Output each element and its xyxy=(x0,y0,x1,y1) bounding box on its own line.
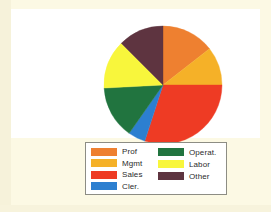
legend-item: Other xyxy=(158,171,221,181)
legend-swatch-prof xyxy=(91,148,117,156)
legend-swatch-sales xyxy=(91,171,117,179)
legend-swatch-labor xyxy=(158,160,184,168)
chart-legend: ProfMgmtSalesCler. Operat.LaborOther xyxy=(85,142,227,195)
scan-edge-left xyxy=(0,0,11,212)
legend-item: Prof xyxy=(91,147,154,157)
legend-label: Operat. xyxy=(189,148,216,157)
legend-swatch-operat xyxy=(158,148,184,156)
page-background: ProfMgmtSalesCler. Operat.LaborOther xyxy=(0,0,271,212)
scan-edge-bottom xyxy=(0,205,271,212)
legend-swatch-cler xyxy=(91,182,117,190)
pie-chart xyxy=(103,25,223,145)
legend-label: Cler. xyxy=(122,182,139,191)
legend-label: Prof xyxy=(122,147,137,156)
chart-panel xyxy=(11,9,260,138)
legend-item: Operat. xyxy=(158,147,221,157)
legend-label: Sales xyxy=(122,170,143,179)
pie-slice-group xyxy=(104,26,222,144)
legend-item: Mgmt xyxy=(91,159,154,169)
legend-label: Mgmt xyxy=(122,159,142,168)
legend-swatch-other xyxy=(158,172,184,180)
legend-label: Labor xyxy=(189,160,210,169)
legend-item: Sales xyxy=(91,170,154,180)
legend-swatch-mgmt xyxy=(91,159,117,167)
legend-label: Other xyxy=(189,172,210,181)
legend-item: Cler. xyxy=(91,182,154,192)
legend-column-left: ProfMgmtSalesCler. xyxy=(91,147,154,191)
legend-item: Labor xyxy=(158,159,221,169)
pie-chart-svg xyxy=(103,25,223,145)
legend-column-right: Operat.LaborOther xyxy=(158,147,221,191)
